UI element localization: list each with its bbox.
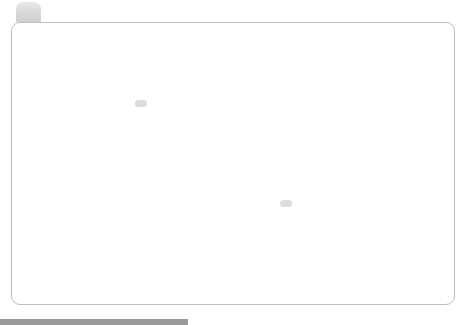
annotation-wage (135, 100, 147, 107)
bottom-bar (0, 319, 188, 325)
figure-container (0, 0, 466, 325)
chart-plot (0, 0, 466, 325)
annotation-unemployment (280, 200, 292, 207)
